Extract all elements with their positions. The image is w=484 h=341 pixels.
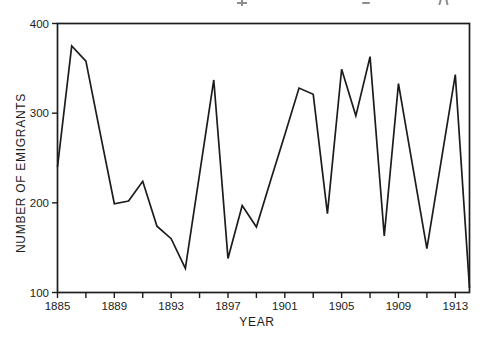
x-tick-label: 1901 [272,300,298,312]
y-tick-label: 200 [30,197,49,209]
x-tick-label: 1893 [158,300,184,312]
x-tick-label: 1885 [45,300,71,312]
x-tick-label: 1897 [215,300,241,312]
y-axis-title: NUMBER OF EMIGRANTS [14,93,28,253]
x-tick-label: 1913 [442,300,468,312]
y-tick-label: 400 [30,18,49,30]
emigrants-line-chart: 1002003004001885188918931897190119051909… [0,0,484,341]
x-axis-title: YEAR [239,315,274,329]
plot-frame [58,24,470,293]
y-tick-label: 100 [30,287,49,299]
y-tick-label: 300 [30,107,49,119]
emigrants-data-line [58,46,470,288]
x-tick-label: 1909 [386,300,412,312]
x-tick-label: 1905 [329,300,355,312]
emigration-time-series-figure: 1002003004001885188918931897190119051909… [0,0,484,341]
x-tick-label: 1889 [102,300,128,312]
